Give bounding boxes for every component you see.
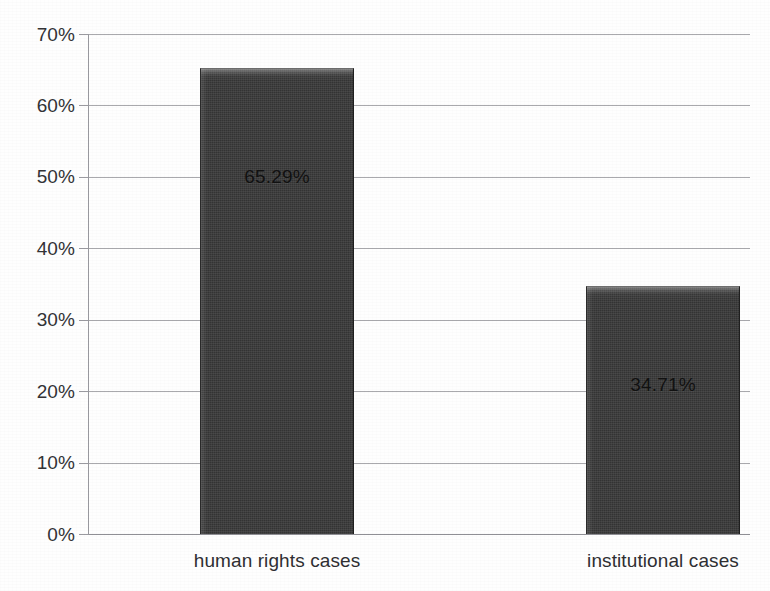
y-tick-mark-60 <box>79 105 88 106</box>
y-tick-label-50: 50% <box>3 167 75 186</box>
bar-institutional-cases[interactable]: 34.71% <box>586 286 740 534</box>
bar-human-rights-cases[interactable]: 65.29% <box>200 68 354 534</box>
y-tick-mark-0 <box>79 534 88 535</box>
gridline-0-baseline <box>88 534 750 535</box>
gridline-50 <box>88 177 750 178</box>
bar-chart: 70% 60% 50% 40% 30% 20% 10% 0% 65.29% 34… <box>0 0 770 591</box>
y-tick-mark-10 <box>79 463 88 464</box>
y-tick-label-60: 60% <box>3 96 75 115</box>
y-tick-label-10: 10% <box>3 453 75 472</box>
x-category-label-human-rights-cases: human rights cases <box>122 550 432 572</box>
bar-value-label-institutional-cases: 34.71% <box>587 375 739 394</box>
gridline-70 <box>88 34 750 35</box>
y-tick-label-30: 30% <box>3 310 75 329</box>
y-tick-mark-40 <box>79 248 88 249</box>
gridline-60 <box>88 105 750 106</box>
y-tick-label-20: 20% <box>3 382 75 401</box>
y-tick-label-0: 0% <box>3 525 75 544</box>
y-tick-mark-70 <box>79 34 88 35</box>
y-tick-label-70: 70% <box>3 25 75 44</box>
y-tick-mark-50 <box>79 177 88 178</box>
gridline-40 <box>88 248 750 249</box>
y-tick-mark-30 <box>79 320 88 321</box>
y-tick-label-40: 40% <box>3 239 75 258</box>
y-axis-line <box>88 34 89 535</box>
y-tick-mark-20 <box>79 391 88 392</box>
bar-value-label-human-rights-cases: 65.29% <box>201 167 353 186</box>
x-category-label-institutional-cases: institutional cases <box>508 550 770 572</box>
plot-area: 65.29% 34.71% <box>88 34 750 534</box>
